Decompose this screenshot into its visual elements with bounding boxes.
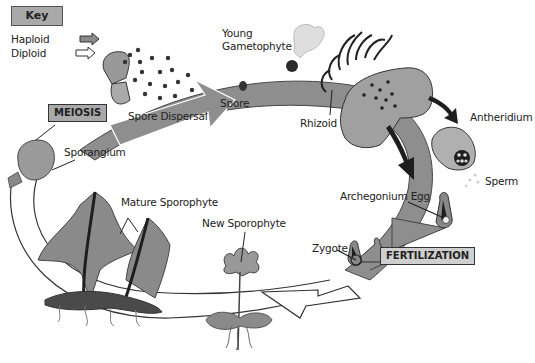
label-antheridium: Antheridium: [470, 111, 533, 123]
mature-sporophyte-illustration: [38, 192, 170, 326]
label-young-gametophyte-line1: Young: [222, 27, 252, 39]
open-sporangium-illustration: [103, 48, 194, 104]
key-haploid-label: Haploid: [11, 33, 50, 45]
fertilization-stage-box: FERTILIZATION: [380, 247, 475, 265]
meiosis-stage-box: MEIOSIS: [48, 104, 107, 122]
label-rhizoid: Rhizoid: [300, 117, 337, 129]
spore-illustration: [239, 81, 247, 91]
meiosis-label: MEIOSIS: [54, 107, 101, 118]
key-arrows: [76, 33, 99, 59]
fertilization-label: FERTILIZATION: [386, 250, 469, 261]
key-title: Key: [26, 9, 49, 22]
label-sperm: Sperm: [485, 175, 518, 187]
label-sporangium: Sporangium: [64, 146, 126, 158]
key-diploid-label: Diploid: [11, 47, 46, 59]
key-title-box: Key: [11, 6, 63, 26]
label-new-sporophyte: New Sporophyte: [202, 217, 286, 229]
new-sporophyte-illustration: [206, 232, 272, 350]
young-gametophyte-illustration: [286, 25, 324, 73]
antheridium-illustration: [432, 127, 480, 187]
label-spore-dispersal: Spore Dispersal: [128, 110, 207, 122]
label-mature-sporophyte: Mature Sporophyte: [121, 196, 218, 208]
label-archegonium-egg: Archegonium Egg: [340, 190, 430, 202]
label-young-gametophyte-line2: Gametophyte: [222, 40, 292, 52]
fern-life-cycle-diagram: [0, 0, 535, 363]
label-zygote: Zygote: [312, 242, 348, 254]
label-spore: Spore: [220, 97, 249, 109]
